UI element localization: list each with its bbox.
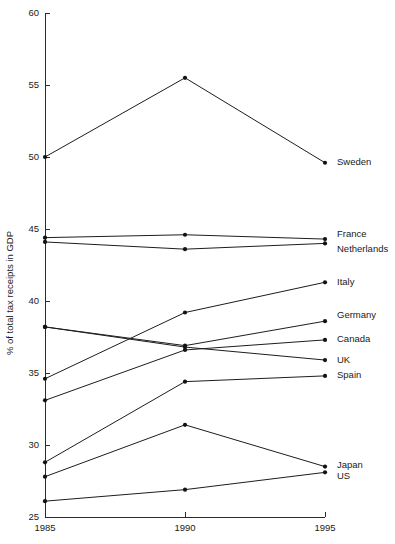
y-tick-label: 40 (28, 295, 39, 306)
series-label-group: SwedenFranceNetherlandsItalyGermanyCanad… (337, 156, 388, 481)
data-point-spain (323, 374, 327, 378)
y-axis: 2530354045505560 (28, 7, 50, 522)
data-point-sweden (323, 161, 327, 165)
x-tick-label: 1990 (174, 522, 195, 533)
series-label-us: US (337, 470, 350, 481)
series-label-canada: Canada (337, 333, 371, 344)
data-point-france (323, 237, 327, 241)
data-point-canada (323, 338, 327, 342)
y-tick-label: 50 (28, 151, 39, 162)
data-series-group (43, 76, 327, 504)
data-point-netherlands (323, 241, 327, 245)
series-label-germany: Germany (337, 309, 376, 320)
series-label-spain: Spain (337, 369, 361, 380)
data-point-germany (323, 319, 327, 323)
series-label-uk: UK (337, 354, 351, 365)
data-point-italy (183, 310, 187, 314)
series-line-spain (45, 376, 325, 462)
data-point-italy (323, 280, 327, 284)
data-point-spain (183, 380, 187, 384)
data-point-us (43, 499, 47, 503)
x-axis: 198519901995 (34, 512, 335, 533)
series-label-italy: Italy (337, 276, 355, 287)
y-axis-title: % of total tax receipts in GDP (4, 231, 15, 355)
data-point-uk (43, 325, 47, 329)
data-point-us (183, 488, 187, 492)
y-tick-label: 55 (28, 79, 39, 90)
data-point-uk (183, 345, 187, 349)
x-tick-label: 1985 (34, 522, 55, 533)
series-line-uk (45, 327, 325, 360)
data-point-japan (183, 423, 187, 427)
y-tick-label: 30 (28, 439, 39, 450)
data-point-netherlands (183, 247, 187, 251)
series-label-france: France (337, 228, 367, 239)
data-point-sweden (43, 155, 47, 159)
series-line-us (45, 472, 325, 501)
series-line-italy (45, 282, 325, 378)
data-point-japan (43, 475, 47, 479)
data-point-spain (43, 460, 47, 464)
y-tick-label: 25 (28, 511, 39, 522)
data-point-uk (323, 358, 327, 362)
y-axis-title-text: % of total tax receipts in GDP (4, 231, 15, 355)
data-point-france (43, 236, 47, 240)
data-point-netherlands (43, 240, 47, 244)
y-tick-label: 45 (28, 223, 39, 234)
x-tick-label: 1995 (314, 522, 335, 533)
data-point-italy (43, 377, 47, 381)
data-point-canada (43, 398, 47, 402)
data-point-france (183, 233, 187, 237)
series-line-japan (45, 425, 325, 477)
y-tick-label: 35 (28, 367, 39, 378)
series-label-netherlands: Netherlands (337, 243, 388, 254)
line-chart-figure: 2530354045505560 198519901995 % of total… (0, 0, 395, 544)
data-point-us (323, 470, 327, 474)
y-tick-label: 60 (28, 7, 39, 18)
series-label-japan: Japan (337, 459, 363, 470)
data-point-sweden (183, 76, 187, 80)
series-line-sweden (45, 78, 325, 163)
series-label-sweden: Sweden (337, 156, 371, 167)
data-point-japan (323, 465, 327, 469)
chart-canvas: 2530354045505560 198519901995 % of total… (0, 0, 395, 544)
